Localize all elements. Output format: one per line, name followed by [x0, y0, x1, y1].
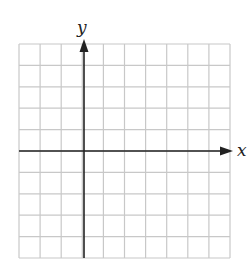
x-axis-label: x [237, 140, 247, 160]
x-axis-arrow-icon [220, 147, 233, 156]
x-axis [19, 147, 233, 156]
y-axis-label: y [76, 17, 87, 37]
y-axis-arrow-icon [80, 39, 89, 52]
y-axis [80, 39, 89, 258]
coordinate-grid: x y [0, 0, 250, 267]
